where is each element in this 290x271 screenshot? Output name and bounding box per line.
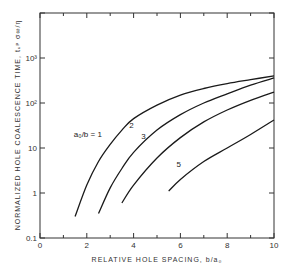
y-tick-label: 10³	[25, 54, 37, 63]
curve-label: 2	[129, 121, 134, 130]
curve-1	[75, 76, 274, 217]
x-tick-label: 2	[85, 241, 90, 250]
curve-label: 5	[176, 160, 181, 169]
x-tick-label: 4	[131, 241, 136, 250]
y-tick-label: 10	[28, 144, 37, 153]
curves: a₀/b = 1235	[74, 76, 274, 217]
axes	[40, 13, 274, 238]
curve-3	[122, 92, 274, 203]
x-tick-label: 8	[225, 241, 230, 250]
curve-4	[169, 120, 274, 191]
y-tick-label: 0.1	[26, 234, 38, 243]
x-tick-label: 0	[38, 241, 43, 250]
x-axis-title: RELATIVE HOLE SPACING, b/a₀	[92, 256, 223, 263]
y-tick-label: 1	[33, 189, 38, 198]
y-tick-label: 10²	[25, 99, 37, 108]
ticks: 02468100.111010²10³	[25, 13, 279, 250]
y-axis-title: NORMALIZED HOLE COALESCENCE TIME, tᵤᵖ σ∞…	[14, 20, 22, 231]
curve-label: a₀/b = 1	[74, 130, 103, 139]
plot-frame	[40, 13, 274, 238]
x-tick-label: 6	[178, 241, 183, 250]
curve-label: 3	[141, 132, 146, 141]
curve-2	[99, 78, 275, 214]
x-tick-label: 10	[270, 241, 279, 250]
chart: 02468100.111010²10³ a₀/b = 1235 RELATIVE…	[0, 0, 290, 271]
